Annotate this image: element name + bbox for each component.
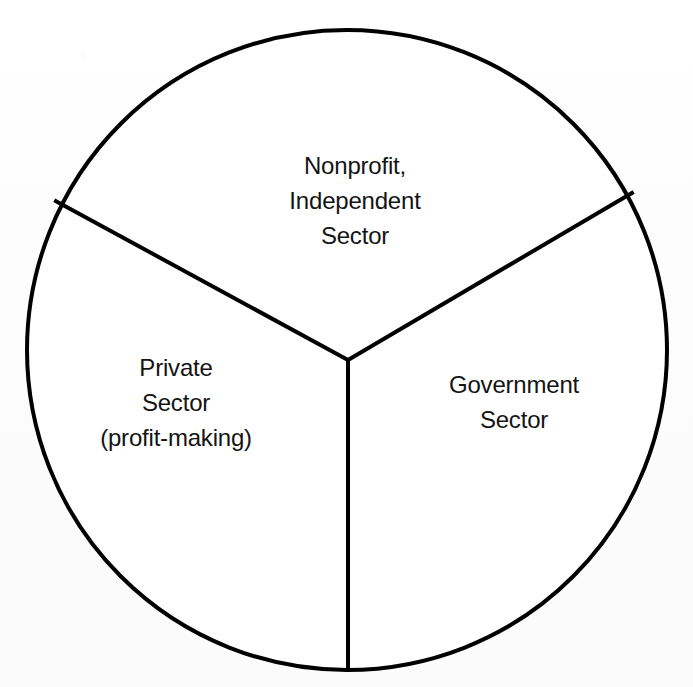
slice-label-government-sector: Government Sector	[449, 367, 579, 437]
slice-label-nonprofit-line-3: Sector	[289, 218, 420, 253]
slice-label-private-line-1: Private	[100, 350, 252, 385]
slice-label-nonprofit-line-1: Nonprofit,	[289, 148, 420, 183]
slice-label-nonprofit-independent-sector: Nonprofit, Independent Sector	[289, 148, 420, 253]
slice-label-private-sector: Private Sector (profit-making)	[100, 350, 252, 455]
slice-label-government-line-2: Sector	[449, 402, 579, 437]
slice-label-private-line-3: (profit-making)	[100, 420, 252, 455]
slice-label-private-line-2: Sector	[100, 385, 252, 420]
slice-label-government-line-1: Government	[449, 367, 579, 402]
pie-chart-graphic	[0, 0, 693, 687]
slice-label-nonprofit-line-2: Independent	[289, 183, 420, 218]
pie-diagram-figure: Nonprofit, Independent Sector Private Se…	[0, 0, 693, 687]
